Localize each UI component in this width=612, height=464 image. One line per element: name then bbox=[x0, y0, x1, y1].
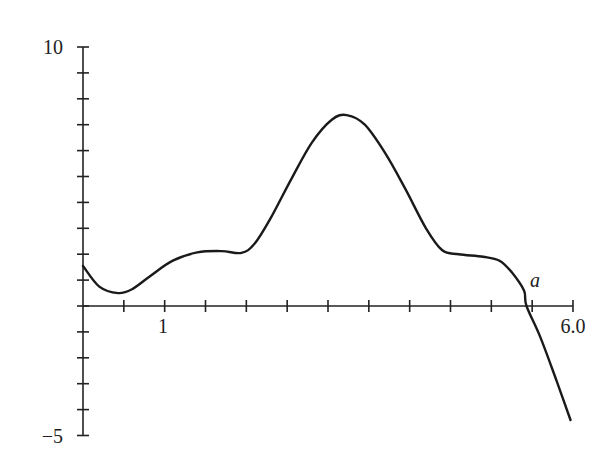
point-a-label: a bbox=[530, 269, 540, 291]
x-one-label: 1 bbox=[158, 315, 168, 337]
x-max-label: 6.0 bbox=[561, 315, 586, 337]
function-curve bbox=[83, 115, 571, 420]
axes bbox=[77, 47, 573, 436]
y-min-label: −5 bbox=[42, 425, 63, 447]
y-max-label: 10 bbox=[43, 36, 63, 58]
function-graph: 10 −5 1 6.0 a bbox=[0, 0, 612, 464]
